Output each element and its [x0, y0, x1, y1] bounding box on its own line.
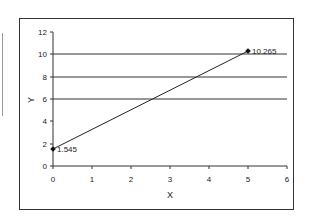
series-line — [53, 51, 248, 149]
data-label-end: 10.265 — [252, 47, 277, 56]
chart-svg: 12 10 8 6 4 2 0 0 1 2 3 4 5 6 X Y 1.545 … — [0, 0, 309, 221]
svg-text:2: 2 — [43, 140, 48, 149]
svg-text:5: 5 — [246, 175, 251, 184]
svg-text:10: 10 — [38, 50, 47, 59]
data-label-start: 1.545 — [57, 145, 78, 154]
x-axis-title: X — [167, 190, 173, 200]
svg-text:8: 8 — [43, 73, 48, 82]
data-point-marker — [50, 146, 56, 152]
svg-text:1: 1 — [90, 175, 95, 184]
data-point-marker — [245, 48, 251, 54]
y-tick-labels: 12 10 8 6 4 2 0 — [38, 28, 47, 171]
svg-text:0: 0 — [43, 162, 48, 171]
svg-text:4: 4 — [43, 117, 48, 126]
svg-text:6: 6 — [43, 95, 48, 104]
svg-text:6: 6 — [285, 175, 290, 184]
svg-text:0: 0 — [51, 175, 56, 184]
svg-text:4: 4 — [207, 175, 212, 184]
svg-text:2: 2 — [129, 175, 134, 184]
gridlines — [53, 54, 287, 99]
y-axis-title: Y — [26, 97, 36, 103]
x-tick-labels: 0 1 2 3 4 5 6 — [51, 175, 290, 184]
svg-text:3: 3 — [168, 175, 173, 184]
svg-text:12: 12 — [38, 28, 47, 37]
